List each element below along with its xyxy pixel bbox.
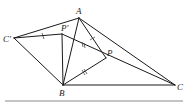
- tick-mark-p-prime-p-2: [84, 43, 85, 48]
- label-c: C: [177, 82, 184, 92]
- segment-a-c: [79, 18, 175, 85]
- label-p: P: [106, 48, 113, 58]
- segment-p-prime-c: [62, 34, 175, 85]
- label-b: B: [59, 88, 65, 98]
- label-a: A: [75, 6, 82, 16]
- tick-mark-p-prime-p-1: [82, 42, 83, 47]
- segment-c-prime-b: [14, 38, 63, 85]
- segment-b-p: [63, 58, 106, 85]
- label-p-prime: P′: [60, 23, 69, 33]
- segment-p-prime-b: [62, 34, 63, 85]
- label-c-prime: C′: [3, 34, 12, 44]
- triangle-diagram: A P′ C′ P B C: [0, 0, 190, 108]
- geometry-figure: A P′ C′ P B C: [0, 0, 190, 108]
